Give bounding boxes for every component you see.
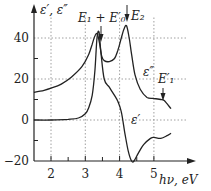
x-tick-label: 5 xyxy=(150,167,158,181)
y-tick-label: 0 xyxy=(21,113,29,127)
y-axis-label: ε′, ε″ xyxy=(40,3,68,17)
x-tick-label: 2 xyxy=(47,167,55,181)
x-axis-arrow-icon xyxy=(187,158,196,164)
dielectric-function-chart: 2345−2002040 ε′, ε″ hν, eV E₁ + E′₀ E₂ E… xyxy=(0,0,211,191)
x-tick-label: 4 xyxy=(116,167,124,181)
label-epsilon-prime: ε′ xyxy=(131,113,140,127)
label-epsilon-double-prime: ε″ xyxy=(143,65,154,79)
annotation-e1-e0: E₁ + E′₀ xyxy=(77,11,126,25)
y-tick-label: −20 xyxy=(4,154,29,168)
annotation-e1-prime: E′₁ xyxy=(157,72,174,86)
curve-epsilon-prime xyxy=(34,31,171,162)
x-axis-label: hν, eV xyxy=(159,173,199,187)
curves xyxy=(34,25,171,162)
y-tick-label: 20 xyxy=(14,72,29,86)
y-tick-label: 40 xyxy=(14,31,29,45)
x-tick-label: 3 xyxy=(81,167,89,181)
ticks: 2345−2002040 xyxy=(4,31,158,181)
annotation-e2: E₂ xyxy=(130,9,145,23)
y-axis-arrow-icon xyxy=(31,4,37,13)
